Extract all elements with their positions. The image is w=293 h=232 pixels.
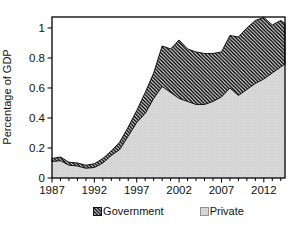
private-swatch-icon [200,207,209,216]
gdp-area-chart-figure: 00.20.40.60.81198719921997200220072012 P… [0,0,293,232]
y-tick-label: 0.6 [29,82,45,94]
chart-areas [52,17,285,178]
x-tick-label: 2007 [209,184,235,196]
legend: Government Private [52,205,285,217]
x-tick-label: 1997 [124,184,150,196]
y-tick-label: 1 [39,22,45,34]
x-tick-label: 2012 [251,184,277,196]
y-axis-title: Percentage of GDP [1,49,13,144]
legend-label-private: Private [210,205,244,217]
legend-item-government: Government [93,205,164,217]
legend-label-government: Government [103,205,164,217]
legend-item-private: Private [200,205,244,217]
x-tick-label: 1992 [82,184,108,196]
y-tick-label: 0 [39,172,45,184]
y-tick-label: 0.2 [29,142,45,154]
chart-canvas: 00.20.40.60.81198719921997200220072012 P… [0,0,293,232]
y-tick-label: 0.8 [29,52,45,64]
x-tick-label: 1987 [39,184,65,196]
government-swatch-icon [93,207,102,216]
x-tick-label: 2002 [166,184,192,196]
y-tick-label: 0.4 [29,112,46,124]
